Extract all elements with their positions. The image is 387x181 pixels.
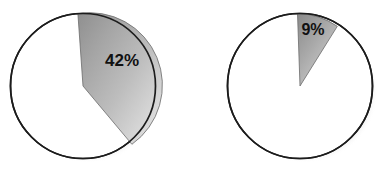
right-pie-percent-label: 9% <box>301 21 324 38</box>
pie-chart-figure: 42% 9% <box>0 0 387 181</box>
left-pie-percent-label: 42% <box>105 51 139 70</box>
figure-canvas: 42% 9% <box>0 0 387 181</box>
